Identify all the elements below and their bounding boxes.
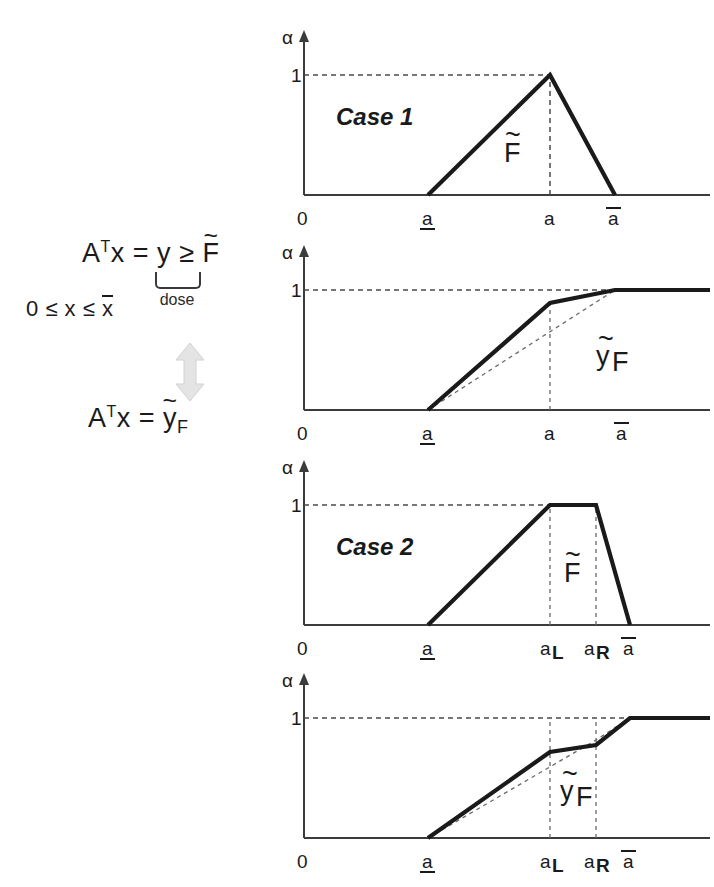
svg-text:a: a: [422, 208, 433, 229]
series-label-y-tilde-F: y ~ F: [596, 324, 629, 377]
y-axis-label: α: [282, 27, 293, 48]
x-tick-0: 0: [297, 208, 308, 229]
x-tick-aR: a R: [584, 851, 610, 876]
svg-text:a: a: [616, 423, 627, 444]
svg-text:L: L: [552, 855, 564, 876]
equation-upper-relation: ≥: [179, 238, 194, 268]
case-title: Case 2: [336, 533, 414, 560]
x-tick-a-upper: a: [606, 208, 621, 229]
formula-block: ATx = y ≥ ~F dose 0 ≤ x ≤ x ATx = ~yF: [0, 110, 275, 340]
constraint-lower: 0: [26, 296, 39, 321]
series-label-y-tilde-F: y ~ F: [560, 759, 593, 812]
svg-text:a: a: [584, 851, 595, 872]
equation-upper-rhs-group: ~F: [202, 238, 219, 269]
y-tick-1: 1: [291, 65, 302, 86]
constraint-rel-1: ≤: [45, 296, 58, 321]
dose-label: dose: [150, 291, 204, 309]
y-axis-arrowhead-icon: [299, 30, 309, 42]
tilde-icon: ~: [203, 224, 218, 249]
y-axis-label: α: [282, 242, 293, 263]
svg-text:a: a: [422, 638, 433, 659]
equation-lower-subscript: F: [177, 417, 189, 437]
x-tick-a-upper: a: [621, 638, 636, 659]
membership-curve: [428, 75, 615, 195]
svg-text:~: ~: [505, 120, 521, 150]
x-tick-aL: a L: [540, 851, 564, 876]
constraint-upper-group: x: [102, 296, 114, 322]
dose-underbrace-icon: [155, 272, 201, 289]
equation-lower-variable: x: [117, 403, 131, 433]
membership-curve: [428, 505, 630, 625]
svg-text:a: a: [422, 851, 433, 872]
svg-text:L: L: [552, 642, 564, 663]
svg-text:a: a: [623, 638, 634, 659]
x-tick-a-upper: a: [621, 851, 636, 872]
y-axis-arrowhead-icon: [299, 245, 309, 257]
case-title: Case 1: [336, 103, 413, 130]
svg-text:a: a: [623, 851, 634, 872]
x-tick-a-upper: a: [614, 423, 629, 444]
x-tick-a-lower: a: [420, 638, 435, 659]
equation-upper-equals: =: [133, 238, 149, 268]
constraint-variable: x: [65, 296, 77, 321]
y-tick-1: 1: [291, 495, 302, 516]
reference-line: [428, 718, 630, 838]
x-tick-a-lower: a: [420, 851, 435, 872]
chart-case2-membership: α 1 Case 2 F ~ 0 a a L a: [278, 452, 714, 664]
y-axis-label: α: [282, 670, 293, 691]
equation-lower-matrix: A: [88, 403, 107, 433]
tilde-icon: ~: [163, 389, 178, 414]
y-axis-arrowhead-icon: [299, 460, 309, 472]
svg-text:R: R: [596, 642, 610, 663]
equation-lower-equals: =: [139, 403, 155, 433]
constraint-rel-2: ≤: [83, 296, 96, 321]
equation-upper: ATx = y ≥ ~F: [82, 238, 219, 269]
x-tick-0: 0: [297, 423, 308, 444]
x-tick-aR: a R: [584, 638, 610, 663]
x-tick-aL: a L: [540, 638, 564, 663]
equation-lower-transpose: T: [107, 403, 117, 420]
x-tick-0: 0: [297, 638, 308, 659]
equation-lower: ATx = ~yF: [88, 403, 189, 438]
y-axis-label: α: [282, 457, 293, 478]
svg-text:F: F: [576, 782, 593, 812]
series-label-F-tilde: F ~: [504, 120, 521, 168]
reference-line: [428, 290, 615, 410]
x-tick-a-lower: a: [420, 208, 435, 229]
svg-text:a: a: [422, 423, 433, 444]
x-tick-a: a: [544, 423, 555, 444]
transformed-curve: [428, 290, 710, 410]
y-tick-1: 1: [291, 280, 302, 301]
equation-constraint: 0 ≤ x ≤ x: [26, 296, 113, 322]
chart-case1-membership: α 1 Case 1 F ~ 0 a a a: [278, 22, 714, 234]
equation-lower-rhs-group: ~y: [163, 403, 177, 434]
y-axis-arrowhead-icon: [299, 673, 309, 685]
svg-text:a: a: [540, 638, 551, 659]
equation-upper-dose-variable: y: [157, 238, 171, 268]
chart-case2-transformed: α 1 y ~ F 0 a a L: [278, 665, 714, 887]
svg-text:F: F: [612, 347, 629, 377]
equation-upper-matrix: A: [82, 238, 101, 268]
svg-text:R: R: [596, 855, 610, 876]
svg-text:~: ~: [565, 540, 581, 570]
equation-upper-variable: x: [111, 238, 125, 268]
svg-text:a: a: [608, 208, 619, 229]
y-tick-1: 1: [291, 708, 302, 729]
equation-upper-transpose: T: [101, 238, 111, 255]
x-tick-a: a: [544, 208, 555, 229]
svg-text:a: a: [540, 851, 551, 872]
x-tick-0: 0: [297, 851, 308, 872]
series-label-F-tilde: F ~: [564, 540, 581, 588]
chart-case1-transformed: α 1 y ~ F 0 a a a: [278, 237, 714, 449]
figure-root: ATx = y ≥ ~F dose 0 ≤ x ≤ x ATx = ~yF α …: [0, 0, 714, 887]
x-tick-a-lower: a: [420, 423, 435, 444]
constraint-upper: x: [102, 296, 114, 321]
svg-text:a: a: [584, 638, 595, 659]
